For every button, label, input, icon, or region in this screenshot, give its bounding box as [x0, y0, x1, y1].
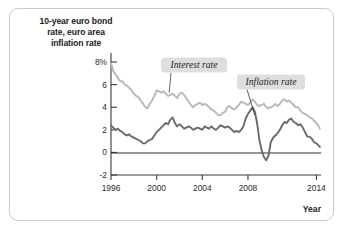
x-axis-tick-label: 2008 [239, 183, 258, 193]
interest-rate-annotation: Interest rate [161, 58, 227, 93]
interest-rate-annotation-label: Interest rate [170, 59, 219, 70]
y-axis-tick-label: 8% [95, 57, 108, 67]
figure-card: 10-year euro bond rate, euro area inflat… [9, 8, 334, 221]
y-axis-tick-marks [111, 62, 117, 175]
y-axis-tick-label: 2 [102, 125, 107, 135]
inflation-rate-series-line [111, 107, 320, 160]
x-axis-tick-label: 1996 [102, 183, 121, 193]
x-axis-tick-label: 2004 [193, 183, 212, 193]
line-chart-plot: 8%6420-2 19962000200420082014 Interest r… [10, 9, 335, 222]
x-axis-tick-labels: 19962000200420082014 [102, 183, 326, 193]
series-annotation-layer: Interest rateInflation rate [161, 58, 305, 116]
y-axis-tick-label: 0 [102, 147, 107, 157]
y-axis-tick-labels: 8%6420-2 [95, 57, 108, 180]
x-axis-name-label: Year [303, 204, 322, 214]
inflation-rate-annotation: Inflation rate [237, 75, 305, 116]
x-axis-tick-marks [111, 175, 316, 180]
y-axis-tick-label: -2 [100, 170, 108, 180]
x-axis-tick-label: 2014 [307, 183, 326, 193]
inflation-rate-annotation-label: Inflation rate [245, 76, 298, 87]
x-axis-group: 19962000200420082014 [102, 175, 326, 193]
x-axis-tick-label: 2000 [147, 183, 166, 193]
y-axis-tick-label: 6 [102, 80, 107, 90]
interest-rate-annotation-leader-line [169, 73, 171, 93]
y-axis-tick-label: 4 [102, 102, 107, 112]
